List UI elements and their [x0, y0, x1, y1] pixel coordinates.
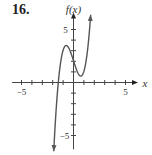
function-graph: x f(x) −5 5 5 −5 — [0, 0, 152, 155]
x-axis-label: x — [142, 77, 148, 89]
x-tick-label-5: 5 — [123, 87, 128, 97]
curve-f-of-x — [52, 15, 93, 151]
y-axis-label: f(x) — [66, 3, 82, 16]
y-tick-label-neg5: −5 — [60, 131, 70, 141]
x-tick-label-neg5: −5 — [17, 87, 27, 97]
axes — [12, 13, 138, 150]
y-tick-label-5: 5 — [63, 25, 68, 35]
